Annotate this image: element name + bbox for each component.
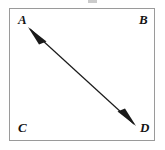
arrowhead-toward-a xyxy=(28,27,47,45)
vertex-label-a: A xyxy=(18,13,27,26)
vertex-label-c: C xyxy=(18,121,27,134)
arrowhead-toward-d xyxy=(118,109,137,127)
arrow-shaft xyxy=(30,29,134,124)
vertex-label-d: D xyxy=(140,121,149,134)
diagram-canvas: A B C D xyxy=(0,0,165,150)
vertex-label-b: B xyxy=(139,13,148,26)
